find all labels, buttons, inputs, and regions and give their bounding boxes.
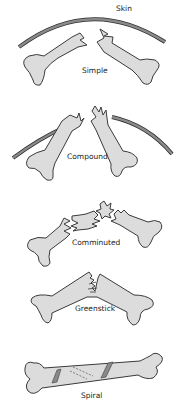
panel-comminuted: Comminuted: [28, 201, 162, 266]
bone-spiral: [25, 353, 163, 393]
label-simple: Simple: [82, 66, 108, 75]
bone-fragment-right: [97, 29, 159, 84]
bone-fragment-small: [96, 201, 114, 219]
label-compound: Compound: [67, 152, 108, 161]
panel-compound: Compound: [13, 106, 172, 180]
bone-fragment-left: [24, 33, 87, 85]
bone-fragment-left: [28, 218, 72, 266]
bone-fragment-middle: [71, 211, 100, 231]
bone-greenstick: [31, 272, 153, 325]
panel-spiral: Spiral: [25, 353, 163, 400]
label-spiral: Spiral: [81, 391, 102, 400]
label-greenstick: Greenstick: [75, 304, 116, 313]
skin-label: Skin: [116, 4, 132, 13]
panel-simple: Skin Simple: [19, 4, 165, 85]
label-comminuted: Comminuted: [72, 238, 121, 247]
bone-fragment-left: [27, 113, 85, 180]
fracture-diagram: Skin Simple Compound Comminuted: [0, 0, 179, 404]
panel-greenstick: Greenstick: [31, 272, 153, 325]
skin-layer: [19, 19, 165, 47]
